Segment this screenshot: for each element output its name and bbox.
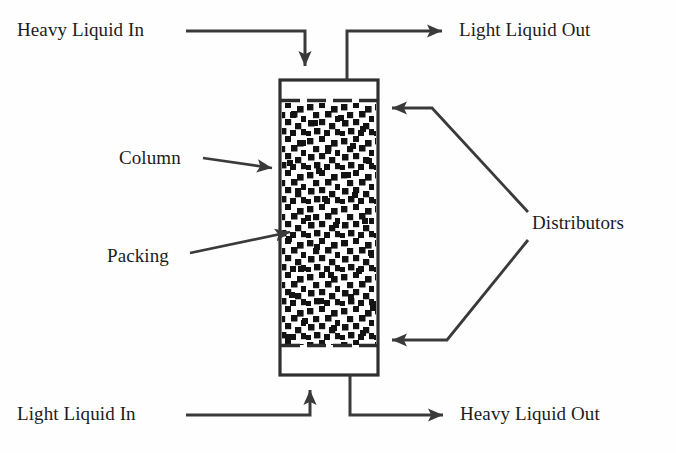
label-heavy-liquid-in: Heavy Liquid In [17, 20, 144, 39]
label-packing: Packing [107, 246, 169, 265]
cropped-caption-remnant [120, 440, 560, 453]
diagram-canvas: Heavy Liquid In Light Liquid Out Light L… [0, 0, 676, 453]
packing-leader-line [190, 232, 290, 253]
label-light-liquid-out: Light Liquid Out [459, 20, 590, 39]
light-liquid-out-pipe [347, 31, 442, 80]
distributor-leader-lower [392, 240, 528, 340]
packing-region [282, 103, 410, 367]
label-light-liquid-in: Light Liquid In [17, 404, 136, 423]
heavy-liquid-out-pipe [350, 375, 443, 415]
column-leader-line [203, 158, 272, 168]
heavy-liquid-in-pipe [186, 31, 305, 66]
label-column: Column [119, 148, 181, 167]
label-heavy-liquid-out: Heavy Liquid Out [460, 404, 600, 423]
distributor-leader-upper [392, 108, 528, 212]
light-liquid-in-pipe [186, 390, 310, 415]
label-distributors: Distributors [532, 213, 624, 232]
